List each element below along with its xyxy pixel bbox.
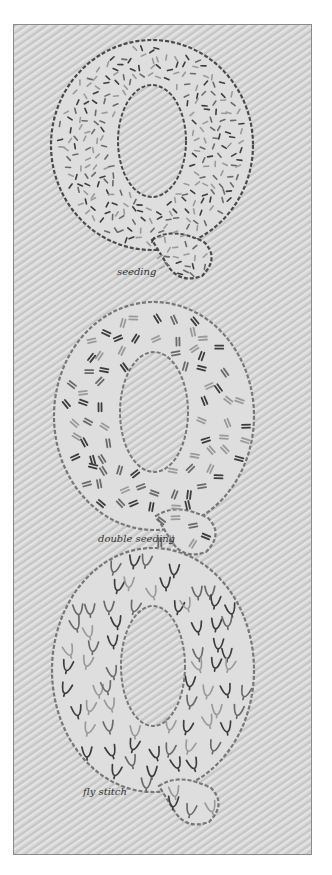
seed-stitch <box>165 237 166 242</box>
seed-stitch <box>93 148 94 153</box>
seed-stitch <box>185 84 190 85</box>
q-inner-outline <box>118 85 186 197</box>
seed-stitch <box>123 75 124 80</box>
seed-stitch <box>210 197 211 202</box>
seed-stitch <box>166 55 167 60</box>
caption-fly-stitch: fly stitch <box>83 786 127 797</box>
seed-stitch <box>80 117 81 122</box>
double-seed-stitch <box>106 439 107 447</box>
double-seed-stitch <box>187 491 188 499</box>
seed-stitch <box>204 109 209 110</box>
double-seed-stitch <box>79 394 87 395</box>
seed-stitch <box>85 199 86 204</box>
seed-stitch <box>232 165 237 166</box>
seed-stitch <box>226 191 231 192</box>
seed-stitch <box>230 137 235 138</box>
seed-stitch <box>197 226 198 231</box>
seed-stitch <box>174 218 179 219</box>
double-seed-stitch <box>109 439 110 447</box>
seed-stitch <box>237 160 242 161</box>
double-seed-stitch <box>172 508 180 509</box>
seed-stitch <box>97 138 98 143</box>
seed-stitch <box>109 166 114 167</box>
seed-stitch <box>193 66 198 67</box>
fabric-canvas <box>14 25 312 855</box>
seed-stitch <box>95 110 96 115</box>
double-seed-stitch <box>198 487 206 488</box>
seed-stitch <box>195 150 200 151</box>
double-seed-stitch <box>172 505 180 506</box>
seed-stitch <box>194 209 195 214</box>
seed-stitch <box>139 66 140 71</box>
seed-stitch <box>204 265 205 270</box>
seed-stitch <box>59 122 60 127</box>
double-seed-stitch <box>79 391 87 392</box>
seed-stitch <box>239 123 244 124</box>
seed-stitch <box>122 59 127 60</box>
seed-stitch <box>195 256 196 261</box>
q-inner-outline <box>120 352 188 472</box>
seed-stitch <box>173 247 178 248</box>
seed-stitch <box>178 273 183 274</box>
seed-stitch <box>193 130 194 135</box>
seed-stitch <box>74 144 75 149</box>
seed-stitch <box>78 187 79 192</box>
seed-stitch <box>102 112 107 113</box>
seed-stitch <box>200 177 205 178</box>
seed-stitch <box>73 154 78 155</box>
seed-stitch <box>187 101 188 106</box>
seed-stitch <box>185 266 190 267</box>
seed-stitch <box>208 156 213 157</box>
embroidery-sample-plate: seeding double seeding fly stitch <box>13 24 312 855</box>
caption-double-seeding: double seeding <box>98 533 175 544</box>
seed-stitch <box>168 69 173 70</box>
double-seed-stitch <box>190 491 191 499</box>
seed-stitch <box>113 173 114 178</box>
seed-stitch <box>166 219 171 220</box>
double-seed-stitch <box>199 337 207 338</box>
seed-stitch <box>222 198 223 203</box>
seed-stitch <box>197 94 198 99</box>
seed-stitch <box>70 128 71 133</box>
seed-stitch <box>231 92 232 97</box>
double-seed-stitch <box>198 484 206 485</box>
caption-seeding: seeding <box>117 266 156 277</box>
seed-stitch <box>175 198 176 203</box>
seed-stitch <box>130 80 131 85</box>
double-seed-stitch <box>199 339 207 340</box>
q-inner-outline <box>121 606 185 726</box>
seed-stitch <box>212 75 213 80</box>
seed-stitch <box>104 82 109 83</box>
